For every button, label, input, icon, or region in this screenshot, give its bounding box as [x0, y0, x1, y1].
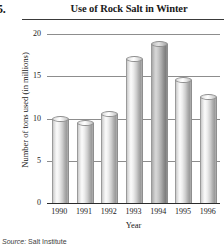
- bar-top-ellipse: [52, 116, 69, 122]
- bar-top-ellipse: [101, 111, 118, 117]
- bar-top-ellipse: [77, 120, 94, 126]
- bar-1993: [126, 59, 143, 203]
- x-axis-title: Year: [47, 220, 220, 230]
- x-tick-label: 1991: [72, 207, 96, 216]
- x-tick-label: 1995: [171, 207, 195, 216]
- source-value: Salt Institute: [28, 238, 67, 245]
- bar-top-ellipse: [175, 77, 192, 83]
- x-tick-label: 1990: [47, 207, 71, 216]
- x-tick-label: 1992: [97, 207, 121, 216]
- bar-1996: [200, 97, 217, 203]
- title-divider: [22, 19, 224, 20]
- bar-1994: [151, 44, 168, 203]
- gridline: [47, 34, 220, 35]
- bar-1992: [101, 114, 118, 203]
- bar-1995: [175, 80, 192, 203]
- x-axis-line: [47, 203, 220, 204]
- x-tick-label: 1996: [196, 207, 220, 216]
- bar-top-ellipse: [151, 41, 168, 47]
- x-tick-label: 1993: [122, 207, 146, 216]
- x-tick-label: 1994: [146, 207, 170, 216]
- y-axis-title: Number of tons used (in millions): [20, 30, 30, 190]
- bar-1990: [52, 119, 69, 204]
- bar-1991: [77, 123, 94, 203]
- chart-title: Use of Rock Salt in Winter: [36, 3, 222, 14]
- bar-top-ellipse: [126, 56, 143, 62]
- chart-figure: 5. Use of Rock Salt in Winter 05101520 N…: [0, 0, 224, 251]
- bar-top-ellipse: [200, 94, 217, 100]
- source-note: Source: Salt Institute: [2, 238, 67, 245]
- item-number: 5.: [0, 2, 6, 17]
- plot-area: [47, 34, 220, 203]
- source-label: Source:: [2, 238, 26, 245]
- y-tick-label: 0: [27, 199, 41, 207]
